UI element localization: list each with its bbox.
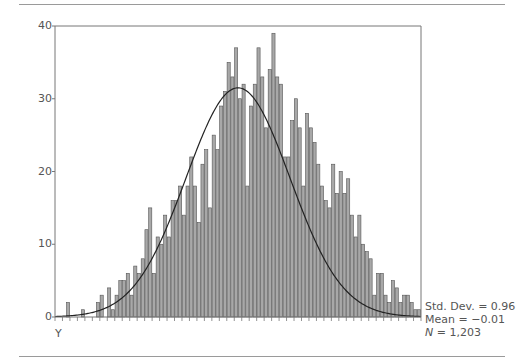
histogram-bar (279, 84, 282, 317)
histogram-bar (227, 62, 230, 317)
histogram-bar (220, 106, 223, 317)
histogram-bar (343, 193, 346, 317)
histogram-bar (246, 186, 249, 317)
histogram-bar (242, 84, 245, 317)
histogram-bar (67, 302, 70, 317)
histogram-bar (350, 215, 353, 317)
histogram-bar (179, 186, 182, 317)
histogram-bar (395, 288, 398, 317)
histogram-bar (197, 222, 200, 317)
histogram-bar (160, 244, 163, 317)
histogram-bar (81, 310, 84, 317)
histogram-bar (171, 201, 174, 317)
histogram-bar (317, 164, 320, 317)
histogram-bar (276, 77, 279, 317)
histogram-bar (287, 157, 290, 317)
histogram-bar (100, 295, 103, 317)
histogram-bar (193, 186, 196, 317)
histogram-bar (302, 186, 305, 317)
y-tick-label-30: 30 (38, 92, 52, 105)
histogram-bar (403, 295, 406, 317)
histogram-bar (391, 281, 394, 317)
histogram-bar (167, 237, 170, 317)
histogram-bar (283, 157, 286, 317)
histogram-bar (115, 295, 118, 317)
histogram-bar (175, 201, 178, 317)
histogram-bar (339, 172, 342, 318)
histogram-bar (186, 186, 189, 317)
x-ticks (55, 317, 421, 321)
histogram-bar (291, 121, 294, 317)
mean-label: Mean = −0.01 (425, 313, 515, 326)
histogram-bars (67, 33, 421, 317)
histogram-bar (152, 273, 155, 317)
histogram-bar (250, 106, 253, 317)
y-tick-label-0: 0 (45, 310, 52, 323)
histogram-bar (294, 99, 297, 317)
y-tick-label-20: 20 (38, 165, 52, 178)
histogram-bar (380, 273, 383, 317)
histogram-bar (410, 302, 413, 317)
histogram-bar (268, 70, 271, 317)
histogram-bar (141, 259, 144, 317)
histogram-bar (406, 295, 409, 317)
histogram-bar (145, 230, 148, 317)
x-axis-label: Y (54, 327, 62, 340)
histogram-bar (335, 193, 338, 317)
std-dev-label: Std. Dev. = 0.96 (425, 300, 515, 313)
histogram-bar (108, 288, 111, 317)
histogram-bar (231, 77, 234, 317)
histogram-bar (208, 208, 211, 317)
y-tick-label-40: 40 (38, 19, 52, 32)
histogram-bar (223, 91, 226, 317)
histogram-bar (298, 128, 301, 317)
histogram-bar (190, 157, 193, 317)
histogram-bar (328, 208, 331, 317)
histogram-bar (205, 150, 208, 317)
histogram-bar (123, 281, 126, 317)
histogram-bar (388, 302, 391, 317)
histogram-bar (264, 128, 267, 317)
histogram-bar (216, 150, 219, 317)
n-symbol: N (425, 326, 433, 339)
histogram-bar (362, 244, 365, 317)
histogram-bar (253, 84, 256, 317)
histogram-bar (354, 237, 357, 317)
histogram-bar (313, 142, 316, 317)
histogram-bar (332, 164, 335, 317)
histogram-bar (182, 215, 185, 317)
histogram-bar (111, 310, 114, 317)
histogram-bar (96, 302, 99, 317)
histogram-bar (126, 273, 129, 317)
histogram-bar (212, 135, 215, 317)
n-label: N = 1,203 (425, 326, 515, 339)
n-value: = 1,203 (433, 326, 481, 339)
histogram-bar (134, 266, 137, 317)
histogram-bar (130, 295, 133, 317)
histogram-bar (272, 33, 275, 317)
y-tick-label-10: 10 (38, 237, 52, 250)
histogram-bar (347, 179, 350, 317)
histogram-bar (306, 113, 309, 317)
histogram-bar (309, 128, 312, 317)
histogram-bar (257, 48, 260, 317)
histogram-bar (201, 164, 204, 317)
histogram-bar (373, 295, 376, 317)
histogram-bar (238, 99, 241, 317)
stats-annotation: Std. Dev. = 0.96 Mean = −0.01 N = 1,203 (425, 300, 515, 339)
